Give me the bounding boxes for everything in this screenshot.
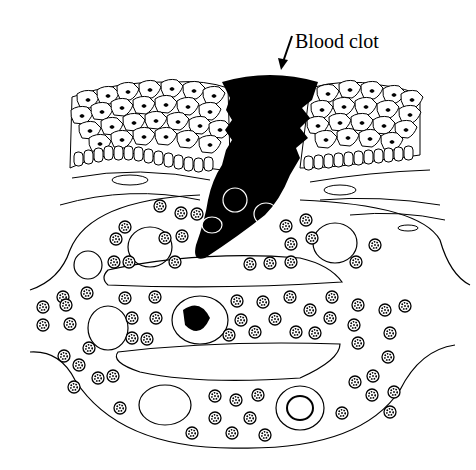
blood-vessel (30, 195, 470, 448)
diagram-canvas: Blood clot (0, 0, 476, 470)
arrow-icon (278, 36, 292, 70)
epidermis-left (70, 79, 231, 172)
wound-illustration (0, 0, 476, 470)
epidermis-right (300, 80, 423, 170)
